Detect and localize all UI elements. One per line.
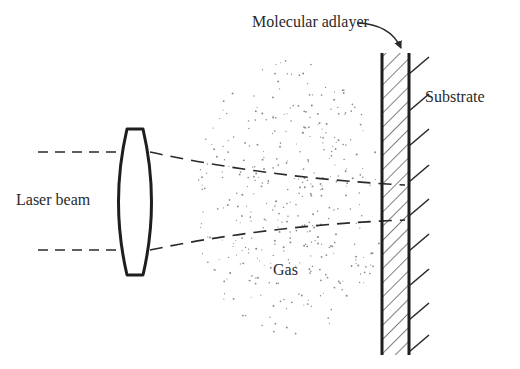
adlayer-label: Molecular adlayer [252, 14, 369, 30]
gas-label: Gas [273, 262, 298, 278]
substrate-label: Substrate [425, 89, 485, 105]
laser-beam-label: Laser beam [16, 192, 90, 208]
lens [119, 129, 152, 275]
molecular-adlayer [382, 53, 409, 355]
laser-adlayer-diagram: Molecular adlayer Substrate Laser beam G… [0, 0, 520, 369]
gas-particles [198, 60, 380, 334]
laser-beam-focused [150, 152, 405, 250]
diagram-canvas [0, 0, 520, 369]
